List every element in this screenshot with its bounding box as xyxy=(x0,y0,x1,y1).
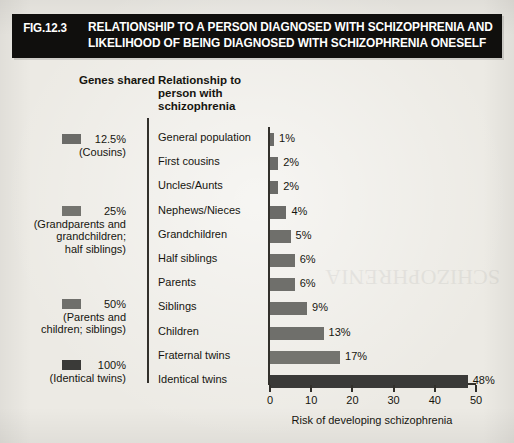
bar-value-label: 6% xyxy=(300,277,316,289)
bar xyxy=(270,302,307,315)
bar xyxy=(270,230,291,243)
x-axis-tick xyxy=(475,385,477,392)
figure-number: FIG.12.3 xyxy=(12,14,67,35)
genes-shared-swatch-row: 12.5% xyxy=(0,133,146,146)
column-divider xyxy=(147,118,149,383)
relationship-label: Uncles/Aunts xyxy=(158,179,223,191)
genes-shared-description: (Cousins) xyxy=(0,146,146,159)
genes-shared-color-swatch-icon xyxy=(62,206,81,216)
genes-shared-description: (Parents andchildren; siblings) xyxy=(0,311,146,336)
genes-shared-group: 25%(Grandparents andgrandchildren;half s… xyxy=(0,205,146,255)
relationship-heading-line-1: Relationship to xyxy=(158,74,278,87)
relationship-label: First cousins xyxy=(158,155,220,167)
genes-shared-description-line: (Cousins) xyxy=(0,146,126,159)
genes-shared-group: 12.5%(Cousins) xyxy=(0,133,146,158)
relationship-label: Siblings xyxy=(158,300,197,312)
genes-shared-swatch-row: 100% xyxy=(0,359,146,372)
bar-value-label: 9% xyxy=(312,301,328,313)
x-axis-tick xyxy=(269,385,271,392)
genes-shared-group: 50%(Parents andchildren; siblings) xyxy=(0,298,146,336)
genes-shared-description-line: grandchildren; xyxy=(0,230,126,243)
relationship-heading-line-3: schizophrenia xyxy=(158,100,278,113)
x-axis-tick-label: 10 xyxy=(305,394,317,406)
genes-shared-heading: Genes shared xyxy=(62,74,172,87)
genes-shared-description: (Identical twins) xyxy=(0,372,146,385)
genes-shared-description-line: children; siblings) xyxy=(0,323,126,336)
figure-container: SCHIZOPHRENIA FIG.12.3 RELATIONSHIP TO A… xyxy=(0,0,514,443)
genes-shared-description-line: (Identical twins) xyxy=(0,372,126,385)
bar xyxy=(270,206,286,219)
relationship-label: Half siblings xyxy=(158,252,217,264)
x-axis-tick-label: 20 xyxy=(346,394,358,406)
x-axis-tick xyxy=(310,385,312,392)
x-axis-tick xyxy=(434,385,436,392)
bar-value-label: 1% xyxy=(279,132,295,144)
genes-shared-color-swatch-icon xyxy=(62,360,81,370)
bar xyxy=(270,278,295,291)
bar xyxy=(270,181,278,194)
genes-shared-percent: 100% xyxy=(86,359,146,372)
bar xyxy=(270,254,295,267)
bar-value-label: 5% xyxy=(296,229,312,241)
relationship-label: Parents xyxy=(158,276,196,288)
bar-value-label: 2% xyxy=(283,156,299,168)
relationship-label: Nephews/Nieces xyxy=(158,204,241,216)
genes-shared-description: (Grandparents andgrandchildren;half sibl… xyxy=(0,218,146,256)
genes-shared-description-line: half siblings) xyxy=(0,243,126,256)
bar xyxy=(270,157,278,170)
genes-shared-percent: 12.5% xyxy=(86,133,146,146)
x-axis-tick-label: 30 xyxy=(387,394,399,406)
bar-value-label: 4% xyxy=(291,205,307,217)
x-axis-tick xyxy=(351,385,353,392)
bar xyxy=(270,351,340,364)
bar-value-label: 2% xyxy=(283,180,299,192)
figure-title-line-1: RELATIONSHIP TO A PERSON DIAGNOSED WITH … xyxy=(88,20,493,36)
relationship-label: Fraternal twins xyxy=(158,349,230,361)
x-axis-tick-label: 50 xyxy=(470,394,482,406)
x-axis-title: Risk of developing schizophrenia xyxy=(268,414,476,426)
relationship-label: Grandchildren xyxy=(158,228,227,240)
genes-shared-swatch-row: 25% xyxy=(0,205,146,218)
x-axis-tick xyxy=(393,385,395,392)
x-axis-tick-label: 40 xyxy=(429,394,441,406)
genes-shared-description-line: (Grandparents and xyxy=(0,218,126,231)
genes-shared-color-swatch-icon xyxy=(62,299,81,309)
bar-value-label: 6% xyxy=(300,253,316,265)
bar-value-label: 13% xyxy=(329,326,351,338)
genes-shared-description-line: (Parents and xyxy=(0,311,126,324)
background-watermark: SCHIZOPHRENIA xyxy=(300,150,500,290)
relationship-label: Identical twins xyxy=(158,373,227,385)
bar xyxy=(270,133,274,146)
relationship-heading: Relationship to person with schizophreni… xyxy=(158,74,278,113)
relationship-label: General population xyxy=(158,131,251,143)
bar xyxy=(270,375,468,388)
x-axis-tick-label: 0 xyxy=(267,394,273,406)
genes-shared-percent: 50% xyxy=(86,298,146,311)
figure-title: RELATIONSHIP TO A PERSON DIAGNOSED WITH … xyxy=(71,14,500,51)
genes-shared-percent: 25% xyxy=(86,205,146,218)
bar xyxy=(270,327,324,340)
genes-shared-group: 100%(Identical twins) xyxy=(0,359,146,384)
genes-shared-color-swatch-icon xyxy=(62,134,81,144)
relationship-label: Children xyxy=(158,325,199,337)
relationship-heading-line-2: person with xyxy=(158,87,278,100)
bar-value-label: 17% xyxy=(345,350,367,362)
figure-header-banner: FIG.12.3 RELATIONSHIP TO A PERSON DIAGNO… xyxy=(12,14,502,58)
genes-shared-swatch-row: 50% xyxy=(0,298,146,311)
figure-title-line-2: LIKELIHOOD OF BEING DIAGNOSED WITH SCHIZ… xyxy=(88,36,493,52)
